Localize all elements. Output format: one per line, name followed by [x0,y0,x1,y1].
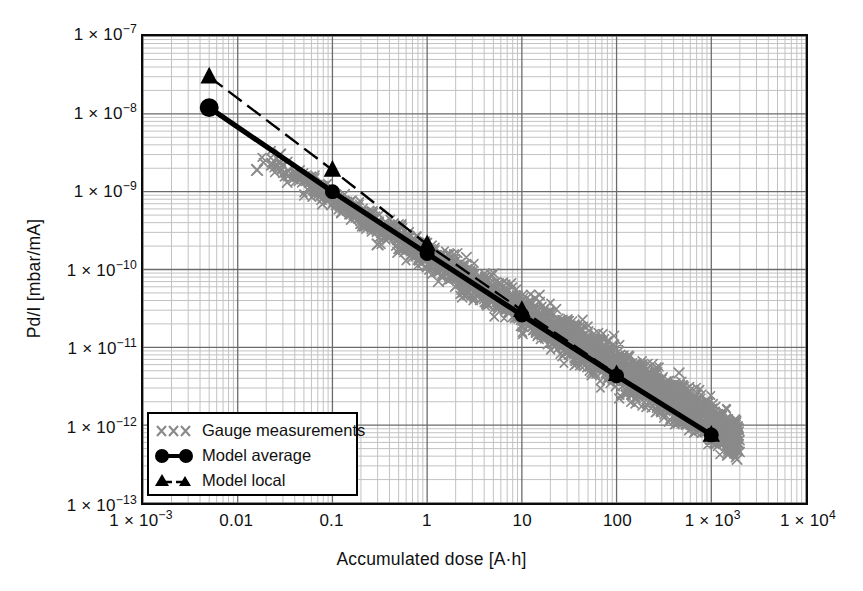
model-average-symbol-icon [154,445,200,467]
x-axis-tick-labels: 1 × 10−30.010.11101001 × 1031 × 104 [0,512,863,542]
x-axis-title: Accumulated dose [A·h] [0,549,863,570]
legend-item-gauge-measurements: Gauge measurements [154,418,356,443]
x-tick-label: 1 × 104 [780,512,836,529]
y-tick-label: 1 × 10−11 [68,340,137,357]
legend-label: Model average [202,447,311,464]
x-tick-label: 0.01 [219,512,253,529]
x-tick-label: 100 [603,512,632,529]
x-tick-label: 0.1 [319,512,343,529]
legend-item-model-average: Model average [154,443,356,468]
y-axis-title: Pd/I [mbar/mA] [24,159,45,399]
legend-label: Model local [202,472,285,489]
y-tick-label: 1 × 10−12 [67,418,137,435]
y-tick-label: 1 × 10−10 [67,261,137,278]
x-tick-label: 1 × 10−3 [109,512,172,529]
gauge-measurements-symbol-icon [154,420,200,442]
x-tick-label: 1 × 103 [685,512,741,529]
x-tick-label: 10 [512,512,531,529]
x-tick-label: 1 [422,512,432,529]
y-axis-tick-labels: 1 × 10−71 × 10−81 × 10−91 × 10−101 × 10−… [0,0,137,591]
legend-box: Gauge measurements Model average Model l… [147,412,358,496]
legend-item-model-local: Model local [154,468,356,493]
figure-root: 1 × 10−71 × 10−81 × 10−91 × 10−101 × 10−… [0,0,863,591]
y-tick-label: 1 × 10−7 [74,26,137,43]
y-tick-label: 1 × 10−9 [74,183,137,200]
y-tick-label: 1 × 10−8 [74,104,137,121]
model-local-symbol-icon [154,470,200,492]
legend-label: Gauge measurements [202,422,365,439]
